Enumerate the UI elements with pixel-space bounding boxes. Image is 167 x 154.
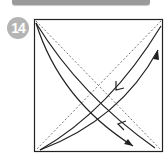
origami-diagram	[0, 0, 167, 154]
